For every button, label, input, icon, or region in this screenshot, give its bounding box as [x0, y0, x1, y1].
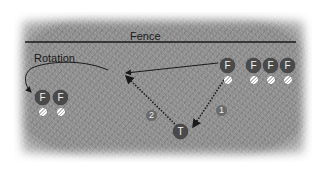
fielder-icon: F [263, 58, 278, 73]
ball-icon [284, 76, 292, 84]
path-label-2: 2 [146, 110, 157, 121]
throw-path-1 [193, 80, 224, 127]
diagram-lines [0, 0, 322, 170]
fielder-icon: F [53, 90, 68, 105]
ball-icon [267, 76, 275, 84]
thrower-icon: T [173, 124, 188, 139]
ball-icon [250, 76, 258, 84]
ball-icon [57, 108, 65, 116]
fielder-icon: F [35, 90, 50, 105]
rotation-label: Rotation [34, 53, 75, 64]
fielder-icon: F [220, 58, 235, 73]
fence-label: Fence [130, 31, 161, 42]
ball-icon [39, 108, 47, 116]
fielder-icon: F [246, 58, 261, 73]
solid-throw-arrow [126, 63, 218, 73]
rotation-arrow [25, 62, 108, 92]
path-label-1: 1 [216, 105, 227, 116]
ball-icon [224, 76, 232, 84]
fielder-icon: F [280, 58, 295, 73]
